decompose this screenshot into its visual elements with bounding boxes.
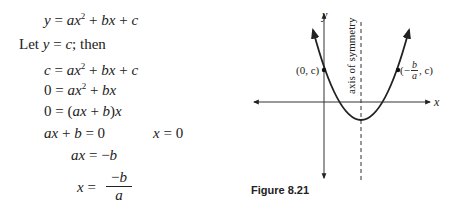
x-axis-label: x bbox=[434, 96, 439, 108]
parabola-graph bbox=[0, 0, 456, 211]
point-0-c bbox=[322, 68, 326, 72]
y-axis-label: y bbox=[322, 9, 327, 21]
point-left-label: (0, c) bbox=[296, 65, 319, 76]
axis-of-symmetry-label: axis of symmetry bbox=[346, 18, 357, 94]
figure-caption: Figure 8.21 bbox=[251, 184, 309, 196]
point-right-label: (− b a , c) bbox=[400, 60, 433, 81]
